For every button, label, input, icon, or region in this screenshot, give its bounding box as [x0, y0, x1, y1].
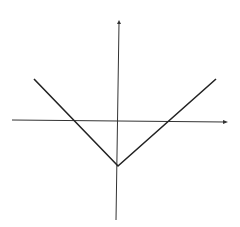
x-axis-arrow-icon — [223, 120, 228, 124]
v-graph-line — [34, 79, 216, 166]
y-axis — [116, 20, 121, 220]
y-axis-arrow-icon — [117, 20, 121, 24]
x-axis — [12, 120, 228, 124]
function-graph — [0, 0, 240, 227]
